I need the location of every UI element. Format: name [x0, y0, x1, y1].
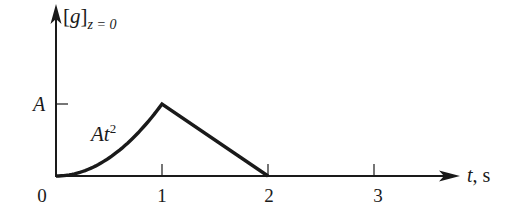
y-axis-label-close: ] — [81, 4, 88, 28]
y-axis-label-open: [ — [63, 4, 70, 28]
x-axis-label: t, s — [467, 165, 490, 185]
curve-annotation-exponent: 2 — [110, 121, 117, 136]
x-tick-label-2: 2 — [264, 186, 274, 205]
y-tick-label-A: A — [33, 94, 45, 114]
y-axis-label-subscript: z = 0 — [88, 17, 117, 32]
y-axis-label-var: g — [70, 4, 81, 28]
x-tick-label-0: 0 — [37, 186, 47, 205]
x-tick-label-3: 3 — [373, 186, 383, 205]
x-axis-label-unit: , s — [473, 164, 491, 186]
chart-plot-area — [0, 0, 515, 216]
curve-annotation-base: At — [91, 122, 110, 146]
curve-annotation: At2 — [91, 124, 116, 145]
x-tick-label-1: 1 — [157, 186, 167, 205]
y-axis-label: [g]z = 0 — [63, 6, 116, 27]
